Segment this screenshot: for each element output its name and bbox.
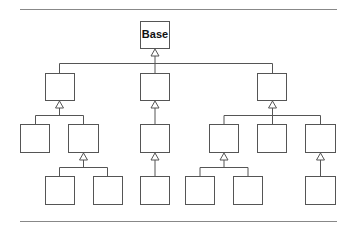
node-c2 <box>258 125 287 153</box>
generalization-arrow-icon <box>151 101 159 108</box>
node-a2 <box>69 125 99 153</box>
generalization-arrow-icon <box>151 49 159 56</box>
node-a1 <box>21 125 50 153</box>
generalization-arrow-icon <box>151 153 159 160</box>
node-b1 <box>141 125 170 153</box>
node-c1b <box>234 177 263 205</box>
generalization-arrow-icon <box>269 101 277 108</box>
node-b1a <box>141 177 170 205</box>
node-a2a <box>46 177 75 205</box>
node-b <box>141 74 170 101</box>
node-c3 <box>306 125 336 153</box>
generalization-arrow-icon <box>317 153 325 160</box>
node-c <box>258 74 287 101</box>
node-a <box>46 74 75 101</box>
base-node-label: Base <box>140 28 170 40</box>
generalization-arrow-icon <box>220 153 228 160</box>
generalization-arrow-icon <box>80 153 88 160</box>
inheritance-diagram <box>0 0 352 231</box>
node-c1a <box>186 177 215 205</box>
node-c1 <box>210 125 239 153</box>
node-c3a <box>306 177 336 205</box>
node-a2b <box>94 177 123 205</box>
generalization-arrow-icon <box>56 101 64 108</box>
